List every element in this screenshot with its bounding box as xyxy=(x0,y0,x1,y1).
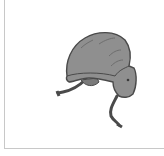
product-thumbnail[interactable] xyxy=(4,0,164,149)
helmet-icon xyxy=(5,0,164,148)
